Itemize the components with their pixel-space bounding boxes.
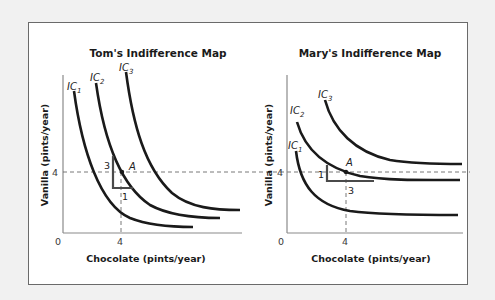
mary-ic3-curve <box>325 100 462 164</box>
mary-x-axis-label: Chocolate (pints/year) <box>311 253 430 264</box>
tom-chart: Tom's Indifference Map IC1 IC2 IC3 3 A 1… <box>39 47 470 264</box>
tom-ic3-curve <box>126 72 240 210</box>
indifference-maps-figure: Tom's Indifference Map IC1 IC2 IC3 3 A 1… <box>0 0 495 300</box>
mary-chart: Mary's Indifference Map IC1 IC2 IC3 A 1 … <box>263 47 463 264</box>
mary-x-tick-4: 4 <box>342 236 348 247</box>
mary-y-axis-label: Vanilla (pints/year) <box>263 104 274 206</box>
tom-origin-label: 0 <box>55 236 61 247</box>
tom-rise-label: 3 <box>104 160 110 171</box>
mary-run-label: 3 <box>348 185 354 196</box>
mary-chart-title: Mary's Indifference Map <box>299 47 442 59</box>
tom-point-a-label: A <box>128 161 136 172</box>
mary-ic1-curve <box>296 151 458 215</box>
tom-point-a-marker <box>120 170 124 174</box>
tom-ic2-label: IC2 <box>90 72 105 86</box>
tom-x-axis-label: Chocolate (pints/year) <box>86 253 205 264</box>
tom-ic2-curve <box>96 83 220 218</box>
mary-point-a-marker <box>344 170 348 174</box>
mary-ic2-label: IC2 <box>290 105 305 119</box>
mary-rise-label: 1 <box>318 169 324 180</box>
mary-point-a-label: A <box>345 157 353 168</box>
tom-run-label: 1 <box>122 191 128 202</box>
tom-y-axis-label: Vanilla (pints/year) <box>39 104 50 206</box>
tom-x-tick-4: 4 <box>117 236 123 247</box>
tom-y-tick-4: 4 <box>52 167 58 178</box>
mary-y-tick-4: 4 <box>277 167 283 178</box>
mary-origin-label: 0 <box>278 236 284 247</box>
tom-chart-title: Tom's Indifference Map <box>90 47 227 59</box>
